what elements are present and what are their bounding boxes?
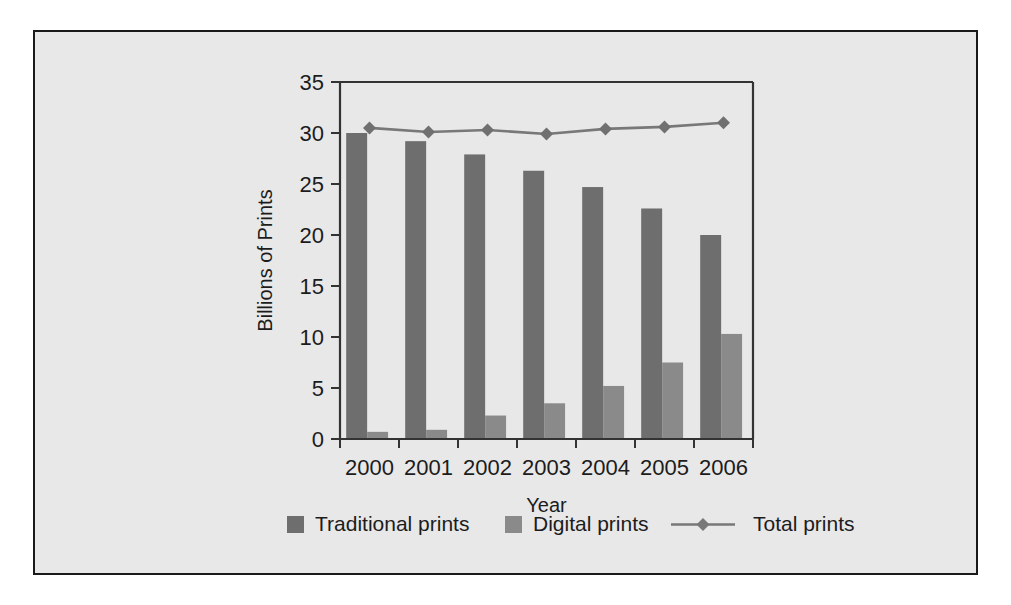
bar-traditional-prints [582, 187, 603, 439]
bar-traditional-prints [700, 235, 721, 439]
x-axis-tick-label: 2006 [699, 455, 748, 480]
bar-digital-prints [603, 386, 624, 439]
bar-digital-prints [662, 363, 683, 440]
bar-traditional-prints [523, 171, 544, 439]
legend-label: Traditional prints [315, 512, 469, 535]
x-axis-tick-label-group: 2000200120022003200420052006 [345, 455, 748, 480]
x-axis-group [340, 439, 753, 448]
y-axis-title: Billions of Prints [254, 189, 276, 331]
bar-digital-prints [485, 416, 506, 439]
x-axis-tick-label: 2005 [640, 455, 689, 480]
legend-label: Total prints [753, 512, 855, 535]
total-prints-marker [540, 128, 553, 141]
bar-digital-prints [544, 403, 565, 439]
total-prints-marker [422, 125, 435, 138]
x-axis-tick-label: 2003 [522, 455, 571, 480]
bar-digital-prints [426, 430, 447, 439]
bar-traditional-prints [405, 141, 426, 439]
y-axis-tick-label: 5 [312, 376, 324, 401]
y-axis-tick-label: 30 [300, 121, 324, 146]
y-axis-tick-label: 10 [300, 325, 324, 350]
total-prints-marker [658, 120, 671, 133]
y-axis-tick-label: 35 [300, 70, 324, 95]
y-axis-tick-label: 15 [300, 274, 324, 299]
line-series-total-prints [363, 116, 730, 140]
total-prints-marker [481, 123, 494, 136]
y-axis-tick-label: 25 [300, 172, 324, 197]
bar-traditional-prints [346, 133, 367, 439]
chart-plot-area: 05101520253035 2000200120022003200420052… [35, 32, 976, 573]
chart-legend: Traditional printsDigital printsTotal pr… [287, 512, 855, 535]
bar-traditional-prints [464, 154, 485, 439]
total-prints-marker [599, 122, 612, 135]
x-axis-tick-label: 2002 [463, 455, 512, 480]
x-axis-tick-label: 2000 [345, 455, 394, 480]
bar-traditional-prints [641, 208, 662, 439]
legend-swatch-icon [505, 516, 522, 533]
y-axis-tick-label: 0 [312, 427, 324, 452]
x-axis-tick-label: 2001 [404, 455, 453, 480]
total-prints-marker [717, 116, 730, 129]
y-axis-tick-label: 20 [300, 223, 324, 248]
total-prints-marker [363, 121, 376, 134]
y-axis-tick-group: 05101520253035 [300, 70, 340, 452]
bar-digital-prints [721, 334, 742, 439]
legend-diamond-marker-icon [697, 518, 710, 531]
legend-label: Digital prints [533, 512, 649, 535]
x-axis-tick-label: 2004 [581, 455, 630, 480]
chart-svg: 05101520253035 2000200120022003200420052… [35, 32, 976, 573]
legend-swatch-icon [287, 516, 304, 533]
chart-figure-frame: 05101520253035 2000200120022003200420052… [33, 30, 978, 575]
